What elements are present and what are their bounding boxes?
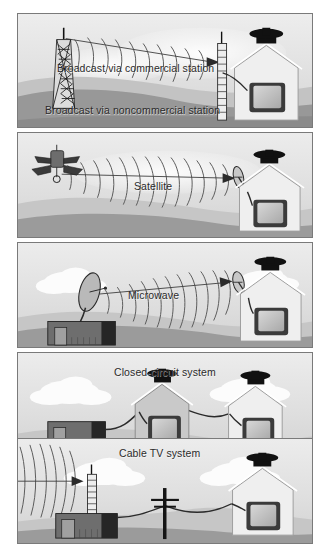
caption-cable-tv: Cable TV system bbox=[119, 447, 200, 459]
station-building-graphic bbox=[48, 321, 116, 345]
television-distribution-figure: Broadcast via commercial station Broadca… bbox=[0, 0, 330, 551]
caption-satellite: Satellite bbox=[134, 180, 172, 192]
caption-closed-circuit: Closed-circuit system bbox=[114, 366, 216, 378]
headend-building-graphic bbox=[56, 514, 118, 539]
caption-microwave: Microwave bbox=[128, 289, 179, 301]
panel-microwave: Microwave bbox=[17, 242, 313, 348]
caption-broadcast-commercial: Broadcast via commercial station bbox=[57, 62, 214, 74]
panel-cable-tv: Cable TV system bbox=[17, 438, 313, 544]
panel-satellite: Satellite bbox=[17, 132, 313, 238]
panel-broadcast: Broadcast via commercial station Broadca… bbox=[17, 13, 313, 128]
caption-broadcast-noncommercial: Broadcast via noncommercial station bbox=[45, 104, 220, 116]
